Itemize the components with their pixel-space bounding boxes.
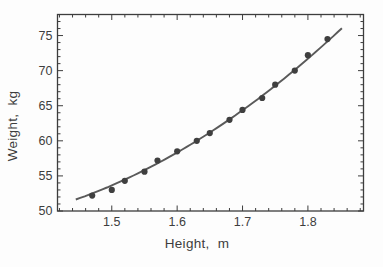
data-point: [141, 169, 147, 175]
x-tick-label: 1.8: [299, 215, 316, 229]
data-point: [239, 107, 245, 113]
data-point: [305, 52, 311, 58]
x-axis-title: Height, m: [165, 236, 230, 251]
plot-frame: [58, 15, 364, 212]
data-point: [324, 36, 330, 42]
data-point: [109, 187, 115, 193]
plot-canvas: 1.51.61.71.8 505560657075 Height, m Weig…: [0, 0, 383, 267]
data-point: [154, 157, 160, 163]
data-points: [89, 36, 331, 199]
data-point: [122, 178, 128, 184]
data-point: [226, 117, 232, 123]
fit-line: [76, 28, 342, 199]
x-tick-label: 1.5: [103, 215, 120, 229]
data-point: [207, 130, 213, 136]
data-point: [174, 148, 180, 154]
y-tick-label: 65: [39, 99, 53, 113]
data-point: [194, 138, 200, 144]
x-tick-label: 1.7: [234, 215, 251, 229]
weight-height-chart: 1.51.61.71.8 505560657075 Height, m Weig…: [0, 0, 383, 267]
x-tick-labels: 1.51.61.71.8: [103, 215, 317, 229]
y-tick-label: 50: [39, 204, 53, 218]
data-point: [272, 82, 278, 88]
y-tick-label: 70: [39, 64, 53, 78]
y-tick-label: 75: [39, 29, 53, 43]
y-axis-title: Weight, kg: [5, 91, 20, 162]
data-point: [89, 193, 95, 199]
y-tick-label: 55: [39, 169, 53, 183]
y-tick-label: 60: [39, 134, 53, 148]
x-tick-label: 1.6: [169, 215, 186, 229]
data-point: [292, 68, 298, 74]
data-point: [259, 95, 265, 101]
y-tick-labels: 505560657075: [39, 29, 53, 218]
x-axis-ticks: [59, 15, 360, 212]
